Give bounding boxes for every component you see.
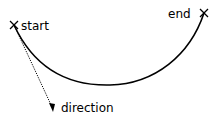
start-x-marker-icon <box>10 21 18 29</box>
direction-label: direction <box>61 101 114 115</box>
end-x-marker-icon <box>200 9 208 17</box>
arc-diagram: start end direction <box>0 0 218 127</box>
start-label: start <box>21 19 49 33</box>
direction-arrowhead-icon <box>49 103 55 112</box>
end-label: end <box>168 7 191 21</box>
